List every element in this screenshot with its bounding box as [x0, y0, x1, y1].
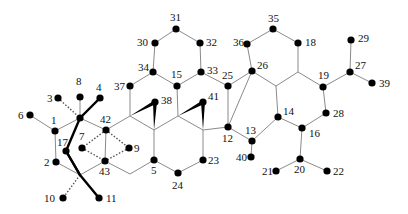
atom-13 — [248, 137, 255, 144]
atom-16 — [298, 124, 305, 131]
label-28: 28 — [333, 107, 345, 119]
atom-38 — [151, 98, 158, 105]
atom-27 — [346, 68, 353, 75]
label-18: 18 — [305, 36, 317, 48]
label-1: 1 — [51, 114, 57, 126]
label-13: 13 — [245, 124, 257, 136]
label-40: 40 — [236, 151, 248, 163]
atom-33 — [197, 68, 204, 75]
label-9: 9 — [134, 142, 140, 154]
label-32: 32 — [206, 36, 217, 48]
atom-36 — [243, 40, 250, 47]
label-22: 22 — [333, 165, 344, 177]
label-4: 4 — [96, 81, 102, 93]
label-12: 12 — [222, 132, 233, 144]
label-3: 3 — [47, 92, 53, 104]
atom-26 — [248, 67, 255, 74]
label-31: 31 — [170, 11, 181, 23]
label-15: 15 — [171, 68, 183, 80]
atom-37 — [126, 82, 133, 89]
atom-41 — [199, 98, 206, 105]
atom-23 — [199, 156, 206, 163]
label-27: 27 — [355, 59, 367, 71]
label-11: 11 — [106, 192, 117, 204]
atom-42 — [102, 126, 109, 133]
dashed-bonds — [58, 98, 129, 198]
atom-32 — [196, 39, 203, 46]
label-29: 29 — [358, 32, 370, 44]
label-23: 23 — [208, 154, 220, 166]
label-39: 39 — [379, 77, 391, 89]
label-14: 14 — [283, 105, 295, 117]
atom-22 — [323, 167, 330, 174]
atom-4 — [96, 94, 103, 101]
atom-43 — [101, 157, 108, 164]
label-35: 35 — [268, 12, 280, 24]
atom-9 — [125, 144, 132, 151]
atom-18 — [294, 39, 301, 46]
label-42: 42 — [100, 113, 111, 125]
atom-25 — [224, 82, 231, 89]
label-41: 41 — [208, 90, 219, 102]
label-17: 17 — [57, 136, 69, 148]
label-21: 21 — [262, 165, 273, 177]
atom-11 — [95, 194, 102, 201]
label-2: 2 — [44, 156, 50, 168]
molecule-diagram: 1 2 3 4 5 6 7 8 9 10 11 12 13 14 15 16 1… — [0, 0, 408, 214]
label-16: 16 — [309, 127, 321, 139]
atom-28 — [322, 109, 329, 116]
atom-24 — [174, 169, 181, 176]
label-6: 6 — [18, 109, 24, 121]
label-24: 24 — [172, 179, 184, 191]
atom-7 — [78, 144, 85, 151]
atom-21 — [272, 167, 279, 174]
atom-15 — [173, 82, 180, 89]
atom-19 — [319, 83, 326, 90]
atom-40 — [247, 153, 254, 160]
label-33: 33 — [207, 64, 219, 76]
atom-3 — [54, 94, 61, 101]
atom-1 — [51, 127, 58, 134]
atom-12 — [224, 123, 231, 130]
label-37: 37 — [114, 80, 126, 92]
atom-5 — [150, 156, 157, 163]
atom-30 — [151, 39, 158, 46]
label-30: 30 — [137, 36, 149, 48]
atom-10 — [59, 194, 66, 201]
label-20: 20 — [294, 163, 306, 175]
atom-20 — [296, 155, 303, 162]
label-8: 8 — [76, 75, 82, 87]
atom-8 — [76, 93, 83, 100]
label-38: 38 — [161, 94, 173, 106]
label-19: 19 — [318, 69, 330, 81]
label-25: 25 — [222, 69, 234, 81]
atom-14 — [274, 113, 281, 120]
atom-center — [76, 114, 83, 121]
atom-31 — [172, 25, 179, 32]
atom-29 — [347, 36, 354, 43]
label-10: 10 — [44, 192, 56, 204]
atom-34 — [149, 68, 156, 75]
atom-17 — [62, 147, 69, 154]
atom-35 — [269, 25, 276, 32]
label-26: 26 — [257, 59, 269, 71]
atom-39 — [368, 79, 375, 86]
label-5: 5 — [151, 164, 157, 176]
atom-2 — [52, 158, 59, 165]
atom-6 — [26, 111, 33, 118]
label-43: 43 — [99, 165, 111, 177]
label-7: 7 — [79, 130, 85, 142]
label-36: 36 — [233, 36, 245, 48]
label-34: 34 — [138, 61, 150, 73]
